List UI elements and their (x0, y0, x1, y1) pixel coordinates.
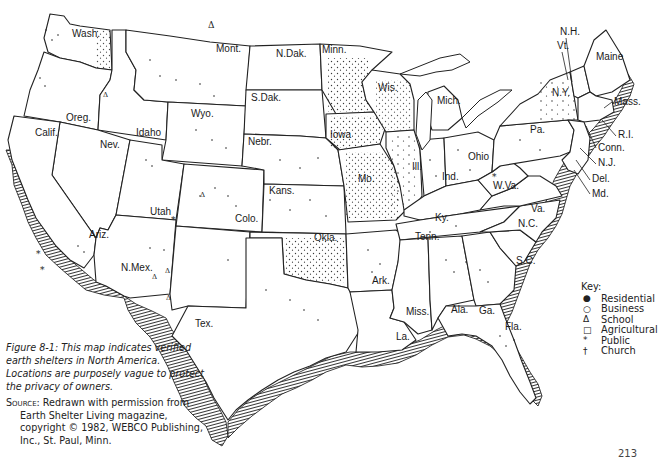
residential-icon: ● (583, 293, 601, 303)
svg-text:Δ: Δ (166, 294, 171, 302)
figure-caption: Figure 8-1: This map indicates verified … (6, 341, 206, 393)
state-label: Mo. (358, 173, 375, 184)
key-item-business: ○Business (583, 304, 658, 315)
state-label: Ala. (451, 304, 468, 315)
state-label: Conn. (598, 142, 625, 153)
svg-text:Δ: Δ (152, 273, 157, 281)
state-label: Ky. (435, 212, 449, 223)
figure-source: Source: Redrawn with permission from Ear… (6, 397, 206, 447)
page-number: 213 (618, 448, 637, 459)
key-item-church: †Church (583, 346, 658, 357)
state-label: Pa. (530, 124, 545, 135)
state-label: N.C. (518, 218, 538, 229)
state-label: Mont. (216, 43, 241, 54)
state-label: Kans. (269, 185, 295, 196)
state-label: Va. (531, 203, 545, 214)
state-label: Oreg. (66, 112, 91, 123)
svg-text:Δ: Δ (165, 267, 170, 275)
map-key: Key: ●Residential ○Business ΔSchool □Agr… (583, 281, 658, 356)
state-label: La. (396, 331, 410, 342)
state-label: W.Va. (493, 180, 519, 191)
key-item-public: *Public (583, 335, 658, 346)
state-label: S.C. (516, 255, 535, 266)
svg-text:Δ: Δ (208, 20, 215, 30)
svg-text:Δ: Δ (103, 91, 108, 99)
state-label: S.Dak. (251, 92, 281, 103)
key-title: Key: (581, 281, 658, 292)
state-label: Wash. (72, 28, 100, 39)
state-label: Mass. (614, 96, 641, 107)
state-label: Nebr. (248, 136, 272, 147)
state-label: Minn. (322, 44, 346, 55)
state-label: Fla. (505, 321, 522, 332)
state-label: N.Y. (552, 87, 570, 98)
agricultural-icon: □ (583, 325, 601, 335)
state-label: Calif. (35, 127, 58, 138)
state-label: Mich. (437, 95, 461, 106)
key-label: School (601, 314, 634, 325)
state-label: N.Dak. (276, 48, 307, 59)
state-label: Wis. (378, 82, 397, 93)
state-label: Tenn. (415, 231, 439, 242)
state-label: Miss. (406, 306, 429, 317)
svg-text:*: * (36, 249, 41, 259)
state-label: Okla. (314, 232, 337, 243)
key-item-agricultural: □Agricultural (583, 325, 658, 336)
state-label: Iowa (330, 129, 352, 140)
state-label: N.Mex. (121, 262, 153, 273)
key-label: Agricultural (601, 324, 658, 335)
key-label: Church (601, 345, 636, 356)
school-icon: Δ (583, 314, 601, 324)
state-label: Maine (596, 51, 624, 62)
state-label: Ariz. (89, 229, 109, 240)
state-label: Ohio (468, 151, 490, 162)
state-label: Del. (592, 173, 610, 184)
svg-text:Δ: Δ (200, 191, 205, 199)
key-label: Public (601, 335, 630, 346)
key-item-residential: ●Residential (583, 293, 658, 304)
state-label: Wyo. (191, 108, 214, 119)
state-label: Ark. (372, 275, 390, 286)
state-label: Ind. (442, 171, 459, 182)
church-icon: † (583, 346, 601, 356)
state-label: Idaho (136, 127, 161, 138)
state-label: Ill. (412, 161, 422, 172)
state-label: Colo. (235, 213, 258, 224)
key-label: Residential (601, 293, 655, 304)
state-label: N.H. (560, 26, 580, 37)
state-label: N.J. (598, 157, 616, 168)
public-icon: * (583, 335, 601, 345)
state-label: Nev. (100, 139, 120, 150)
source-label: Source: (6, 397, 40, 408)
source-text: Redrawn with permission from Earth Shelt… (20, 397, 203, 446)
svg-text:*: * (40, 265, 45, 275)
state-label: R.I. (618, 129, 634, 140)
state-label: Tex. (195, 318, 213, 329)
state-label: Ga. (479, 305, 495, 316)
state-label: Utah (150, 206, 171, 217)
business-icon: ○ (583, 304, 601, 314)
svg-text:*: * (171, 215, 176, 225)
key-label: Business (601, 303, 644, 314)
key-item-school: ΔSchool (583, 314, 658, 325)
state-label: Md. (592, 188, 609, 199)
